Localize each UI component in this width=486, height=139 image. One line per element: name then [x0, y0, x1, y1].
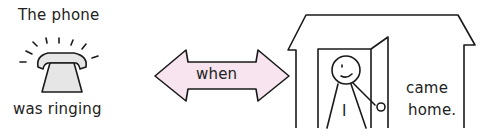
left-bottom-text: was ringing — [13, 100, 102, 118]
right-text-line2: home. — [408, 101, 456, 119]
telephone-icon — [38, 53, 87, 92]
person-icon — [327, 56, 385, 128]
connector-label: when — [196, 65, 237, 83]
left-top-text: The phone — [18, 6, 99, 24]
right-text-line1: came — [406, 79, 448, 97]
person-label: I — [342, 102, 347, 120]
